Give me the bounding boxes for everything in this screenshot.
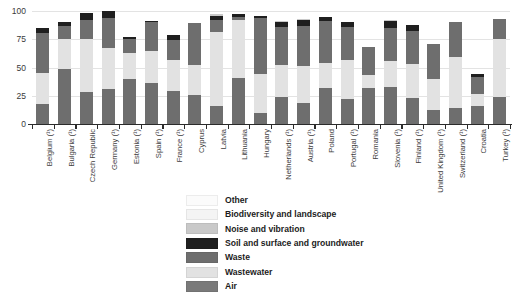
bar-segment <box>319 63 332 88</box>
legend-label: Air <box>225 282 237 291</box>
bar-segment <box>384 28 397 61</box>
bar-segment <box>297 26 310 67</box>
legend-swatch <box>186 267 218 278</box>
x-tick-label: Hungary <box>263 129 271 158</box>
x-tick-label: Spain (¹) <box>155 129 163 158</box>
bar <box>384 20 397 124</box>
legend-item: Waste <box>186 251 363 265</box>
bar <box>471 74 484 124</box>
bar-segment <box>188 23 201 65</box>
bar-series-container <box>32 11 510 124</box>
bar-segment <box>167 60 180 92</box>
bar-segment <box>297 103 310 124</box>
x-tick-label: Slovenia (¹) <box>394 129 402 168</box>
bar-segment <box>275 97 288 124</box>
y-tick-label: 0 <box>2 120 26 129</box>
bar <box>123 37 136 124</box>
bar <box>493 19 506 124</box>
y-tick-label: 100 <box>2 7 26 16</box>
legend-label: Biodiversity and landscape <box>225 210 336 219</box>
bar-segment <box>427 44 440 79</box>
bar-segment <box>58 26 71 40</box>
x-tick-label: Switzerland (¹) <box>459 129 467 178</box>
legend-item: Biodiversity and landscape <box>186 207 363 221</box>
bar-segment <box>80 13 93 20</box>
x-tick-label: Netherlands (¹) <box>285 129 293 180</box>
bar-segment <box>254 74 267 112</box>
legend-swatch <box>186 223 218 234</box>
bar-segment <box>58 69 71 124</box>
bar-segment <box>341 27 354 60</box>
legend-item: Other <box>186 193 363 207</box>
bar <box>102 11 115 124</box>
bar-segment <box>254 18 267 75</box>
legend-item: Wastewater <box>186 265 363 279</box>
bar-segment <box>471 94 484 106</box>
y-tick-label: 75 <box>2 35 26 44</box>
bar-segment <box>406 98 419 124</box>
bar-segment <box>493 39 506 97</box>
bar-segment <box>341 60 354 100</box>
stacked-bar-chart: 0255075100 Belgium (¹)Bulgaria (¹)Czech … <box>0 0 524 300</box>
legend-swatch <box>186 195 218 206</box>
bar-segment <box>102 48 115 89</box>
x-tick-label: Cyprus <box>198 129 206 153</box>
bar-segment <box>80 39 93 92</box>
bar-segment <box>406 31 419 64</box>
bar <box>362 47 375 124</box>
legend-swatch <box>186 252 218 263</box>
x-axis-labels: Belgium (¹)Bulgaria (¹)Czech RepublicGer… <box>32 129 510 193</box>
bar-segment <box>275 65 288 97</box>
legend-item: Noise and vibration <box>186 222 363 236</box>
legend-label: Wastewater <box>225 268 272 277</box>
bar <box>188 23 201 124</box>
legend-swatch <box>186 209 218 220</box>
x-tick-label: Bulgaria (¹) <box>68 129 76 167</box>
legend-label: Waste <box>225 253 250 262</box>
bar-segment <box>80 20 93 39</box>
bar <box>254 16 267 124</box>
bar-segment <box>102 89 115 124</box>
bar-segment <box>471 106 484 124</box>
bar-segment <box>123 79 136 124</box>
bar-segment <box>80 92 93 124</box>
legend-label: Soil and surface and groundwater <box>225 239 363 248</box>
bar-segment <box>145 22 158 50</box>
bar <box>210 14 223 124</box>
bar-segment <box>384 21 397 28</box>
x-tick-label: United Kingdom (¹) <box>437 129 445 193</box>
bar <box>145 21 158 124</box>
x-tick-label: France (¹) <box>176 129 184 162</box>
bar <box>427 44 440 124</box>
x-tick-label: Belgium (¹) <box>46 129 54 166</box>
x-tick-label: Croatia <box>480 129 488 153</box>
y-axis: 0255075100 <box>0 11 26 124</box>
bar-segment <box>145 51 158 84</box>
bar-segment <box>319 88 332 124</box>
bar-segment <box>297 66 310 102</box>
bar-segment <box>232 20 245 78</box>
legend-swatch <box>186 238 218 249</box>
legend-item: Soil and surface and groundwater <box>186 236 363 250</box>
bar <box>167 35 180 124</box>
legend-swatch <box>186 281 218 292</box>
bar <box>275 21 288 124</box>
bar-segment <box>36 104 49 124</box>
bar-segment <box>167 91 180 124</box>
bar-segment <box>362 88 375 124</box>
legend-item: Air <box>186 279 363 293</box>
bar <box>36 28 49 124</box>
x-tick-label: Finland (¹) <box>415 129 423 164</box>
x-tick-label: Czech Republic <box>89 129 97 182</box>
bar-segment <box>102 18 115 49</box>
bar-segment <box>36 33 49 74</box>
bar <box>449 22 462 124</box>
x-tick-label: Estonia (¹) <box>133 129 141 164</box>
bar <box>319 17 332 124</box>
bar <box>80 13 93 124</box>
plot-area <box>32 11 510 124</box>
bar-segment <box>384 61 397 87</box>
bar-segment <box>188 65 201 94</box>
bar-segment <box>406 25 419 32</box>
bar-segment <box>341 99 354 124</box>
